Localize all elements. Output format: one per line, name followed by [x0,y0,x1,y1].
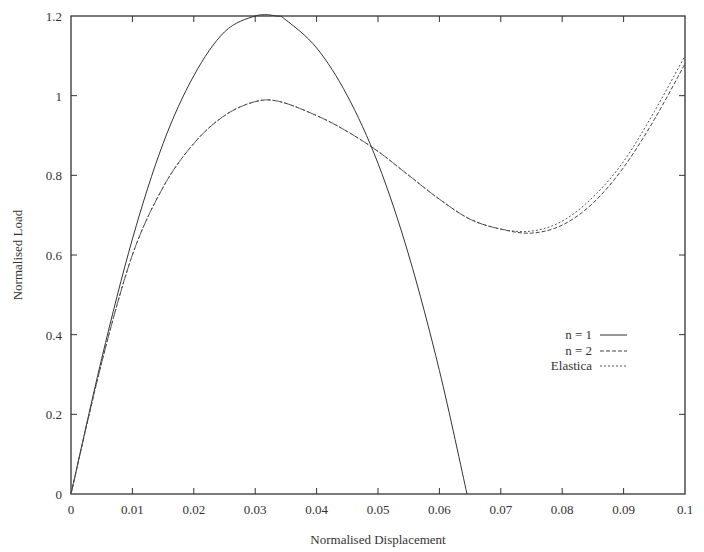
line-chart: 00.010.020.030.040.050.060.070.080.090.1… [0,0,704,552]
plot-frame [71,16,685,494]
y-axis-title: Normalised Load [10,209,25,300]
x-tick-label: 0.09 [612,502,635,517]
x-tick-label: 0.01 [121,502,144,517]
x-tick-label: 0.1 [677,502,693,517]
legend: n = 1 n = 2 Elastica [551,327,627,373]
legend-label-elastica: Elastica [551,358,592,373]
legend-label-n2: n = 2 [565,343,592,358]
x-tick-label: 0.05 [367,502,390,517]
series-line-elastica [71,56,685,494]
axis-tick-labels: 00.010.020.030.040.050.060.070.080.090.1… [46,9,693,517]
x-tick-label: 0.03 [244,502,267,517]
y-tick-label: 0.8 [46,168,62,183]
x-tick-label: 0.07 [489,502,512,517]
y-tick-label: 1.2 [46,9,62,24]
y-tick-label: 0.6 [46,248,63,263]
series-line-n-1 [71,15,467,494]
x-axis-title: Normalised Displacement [310,532,446,547]
y-tick-label: 0.4 [46,328,63,343]
x-tick-label: 0.02 [182,502,205,517]
x-tick-label: 0.06 [428,502,451,517]
x-tick-label: 0.04 [305,502,328,517]
y-tick-label: 1 [56,89,63,104]
axis-ticks [71,16,685,494]
series-line-n-2 [71,64,685,494]
y-tick-label: 0.2 [46,407,62,422]
data-series [71,15,685,494]
legend-label-n1: n = 1 [565,327,592,342]
y-tick-label: 0 [56,487,63,502]
x-tick-label: 0.08 [551,502,574,517]
x-tick-label: 0 [68,502,75,517]
